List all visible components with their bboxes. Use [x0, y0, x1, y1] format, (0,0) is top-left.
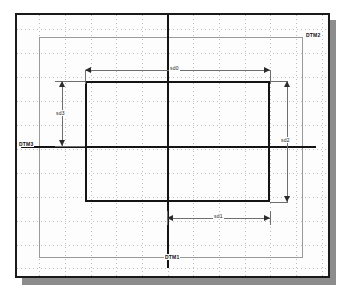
grid-line-vertical: [322, 15, 323, 276]
grid-line-horizontal: [17, 29, 328, 30]
arrow-up-icon: [59, 81, 65, 87]
arrow-left-icon: [85, 67, 91, 73]
dimension-label-sd0[interactable]: sd0: [169, 65, 180, 71]
grid-line-horizontal: [17, 268, 328, 269]
datum-label-dtm1[interactable]: DTM1: [164, 254, 180, 260]
arrow-left-icon: [167, 215, 173, 221]
datum-line-dtm1[interactable]: [167, 15, 169, 268]
arrow-down-icon: [59, 140, 65, 146]
drawing-canvas[interactable]: sd0 sd1 sd2 sd3: [0, 0, 350, 302]
witness-line-sd1-right: [270, 211, 271, 225]
dimension-label-sd2[interactable]: sd2: [280, 137, 291, 143]
arrow-right-icon: [264, 67, 270, 73]
witness-line-sd3-bottom: [55, 146, 85, 147]
datum-label-dtm3[interactable]: DTM3: [18, 141, 34, 147]
dimension-label-sd3[interactable]: sd3: [55, 110, 66, 116]
witness-line-sd2-bottom: [270, 202, 288, 203]
profile-rectangle[interactable]: [85, 81, 270, 202]
arrow-right-icon: [264, 215, 270, 221]
datum-label-dtm2[interactable]: DTM2: [305, 32, 321, 38]
drawing-frame[interactable]: sd0 sd1 sd2 sd3: [15, 13, 330, 278]
dimension-label-sd1[interactable]: sd1: [213, 213, 224, 219]
arrow-up-icon: [284, 81, 290, 87]
arrow-down-icon: [284, 196, 290, 202]
